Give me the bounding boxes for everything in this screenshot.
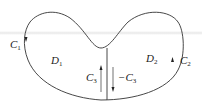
outer-boundary-curve — [24, 12, 183, 100]
label-d2: D2 — [145, 52, 158, 66]
region-diagram: C1 D1 D2 C2 C3 −C3 — [0, 0, 202, 110]
label-c1: C1 — [10, 38, 21, 52]
label-c2: C2 — [180, 54, 191, 68]
neg-c3-arrow-icon — [112, 87, 115, 92]
c1-arrow-icon — [25, 37, 28, 42]
c3-arrow-icon — [100, 65, 103, 70]
c2-arrow-icon — [171, 57, 174, 62]
label-neg-c3: −C3 — [118, 71, 137, 85]
label-d1: D1 — [50, 54, 63, 68]
label-c3: C3 — [86, 71, 97, 85]
